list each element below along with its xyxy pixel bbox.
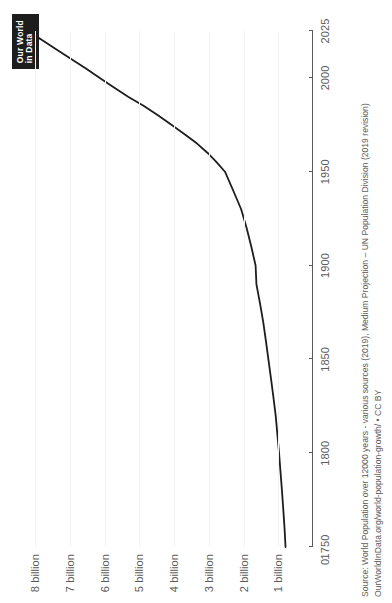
rotated-figure-stage: Our World in Data 1 billion2 billion3 bi…: [0, 0, 392, 603]
license-line[interactable]: OurWorldInData.org/world-population-grow…: [372, 103, 384, 597]
x-axis-tick: [309, 30, 313, 31]
x-axis-tick: [309, 265, 313, 266]
x-axis-tick: [309, 546, 313, 547]
y-gridline: [105, 31, 106, 547]
x-axis-tick-label: 1750: [319, 535, 331, 560]
y-axis-tick-label: 5 billion: [133, 554, 145, 592]
y-axis-tick-label: 3 billion: [203, 554, 215, 592]
y-gridline: [35, 31, 36, 547]
series-line-projection: [29, 31, 40, 39]
y-axis-tick-label: 6 billion: [99, 554, 111, 592]
y-axis-tick-label: 4 billion: [168, 554, 180, 592]
origin-zero-label: 0: [319, 559, 331, 565]
source-line: Source: World Population over 12000 year…: [359, 103, 371, 597]
chart-source-footer: Source: World Population over 12000 year…: [359, 103, 384, 597]
y-gridline: [244, 31, 245, 547]
y-axis-tick-label: 7 billion: [64, 554, 76, 592]
y-axis-tick-label: 1 billion: [272, 554, 284, 592]
x-axis-tick-label: 2025: [319, 19, 331, 44]
x-axis-tick: [309, 77, 313, 78]
population-line-chart: [18, 31, 313, 547]
x-axis-tick-label: 1850: [319, 347, 331, 372]
x-axis-tick-label: 1800: [319, 441, 331, 466]
x-axis-tick-label: 1900: [319, 253, 331, 278]
y-gridline: [139, 31, 140, 547]
plot-area: 1 billion2 billion3 billion4 billion5 bi…: [18, 31, 313, 547]
y-axis-tick-label: 8 billion: [29, 554, 41, 592]
x-axis-tick-label: 2000: [319, 65, 331, 90]
y-axis-tick-label: 2 billion: [238, 554, 250, 592]
y-gridline: [70, 31, 71, 547]
x-axis-tick-label: 1950: [319, 159, 331, 184]
x-axis-tick: [309, 358, 313, 359]
y-gridline: [209, 31, 210, 547]
chart-figure: Our World in Data 1 billion2 billion3 bi…: [0, 0, 392, 603]
x-axis-tick: [309, 452, 313, 453]
y-gridline: [174, 31, 175, 547]
series-line-world-population: [40, 39, 286, 547]
x-axis-tick: [309, 171, 313, 172]
y-gridline: [278, 31, 279, 547]
